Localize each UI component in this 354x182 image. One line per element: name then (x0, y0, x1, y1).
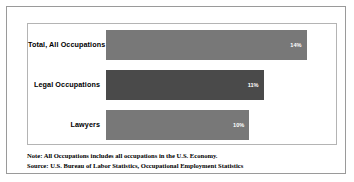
bar-category-label: Legal Occupations (28, 70, 100, 100)
bar-value-label: 14% (290, 30, 301, 60)
figure-outer-border: Total, All Occupations 14% Legal Occupat… (6, 6, 346, 174)
bar: 11% (106, 70, 264, 100)
bar-value-label: 11% (248, 70, 259, 100)
bar-row: Total, All Occupations 14% (28, 30, 336, 60)
bar: 14% (106, 30, 307, 60)
bar-row: Lawyers 10% (28, 110, 336, 140)
footnote-note: Note: All Occupations includes all occup… (27, 151, 337, 161)
bar: 10% (106, 110, 249, 140)
footnote-source: Source: U.S. Bureau of Labor Statistics,… (27, 161, 337, 171)
footnote-block: Note: All Occupations includes all occup… (27, 151, 337, 170)
bar-category-label: Total, All Occupations (28, 30, 100, 60)
bar-value-label: 10% (233, 110, 244, 140)
plot-area: Total, All Occupations 14% Legal Occupat… (27, 23, 337, 145)
bar-row: Legal Occupations 11% (28, 70, 336, 100)
chart-figure: Total, All Occupations 14% Legal Occupat… (0, 0, 354, 182)
bar-category-label: Lawyers (28, 110, 100, 140)
